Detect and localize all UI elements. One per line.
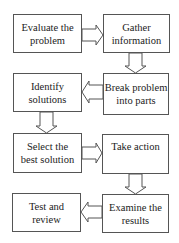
node-label-line: Identify bbox=[31, 80, 64, 93]
node-label-line: into parts bbox=[116, 94, 155, 107]
node-examine-results: Examine the results bbox=[102, 194, 169, 233]
arrow-down-icon bbox=[125, 53, 146, 73]
arrow-left-icon bbox=[82, 81, 103, 103]
node-label-line: Take action bbox=[111, 140, 160, 153]
node-label-line: Evaluate the bbox=[21, 21, 73, 34]
node-label-line: solutions bbox=[29, 93, 67, 106]
node-identify-solutions: Identify solutions bbox=[13, 73, 82, 112]
node-break-problem: Break problem into parts bbox=[103, 73, 169, 115]
arrow-left-icon bbox=[81, 202, 102, 222]
node-test-review: Test and review bbox=[12, 193, 81, 232]
node-label-line: Test and bbox=[29, 200, 64, 213]
node-take-action: Take action bbox=[102, 134, 169, 174]
arrow-down-icon bbox=[125, 174, 146, 194]
node-label-line: best solution bbox=[21, 153, 74, 166]
node-label-line: Examine the bbox=[109, 201, 162, 214]
arrow-right-icon bbox=[82, 143, 102, 163]
node-label-line: Select the bbox=[27, 140, 68, 153]
node-label-line: information bbox=[112, 34, 162, 47]
arrow-right-icon bbox=[82, 25, 103, 45]
node-select-best-solution: Select the best solution bbox=[13, 133, 82, 173]
flowchart-canvas: Evaluate the problem Gather information … bbox=[0, 0, 179, 243]
node-gather-information: Gather information bbox=[103, 14, 170, 53]
node-label-line: review bbox=[32, 213, 61, 226]
node-label-line: results bbox=[122, 214, 149, 227]
node-evaluate-problem: Evaluate the problem bbox=[13, 14, 82, 53]
node-label-line: problem bbox=[30, 34, 65, 47]
arrow-down-icon bbox=[36, 112, 57, 133]
node-label-line: Gather bbox=[122, 21, 151, 34]
node-label-line: Break problem bbox=[105, 81, 168, 94]
